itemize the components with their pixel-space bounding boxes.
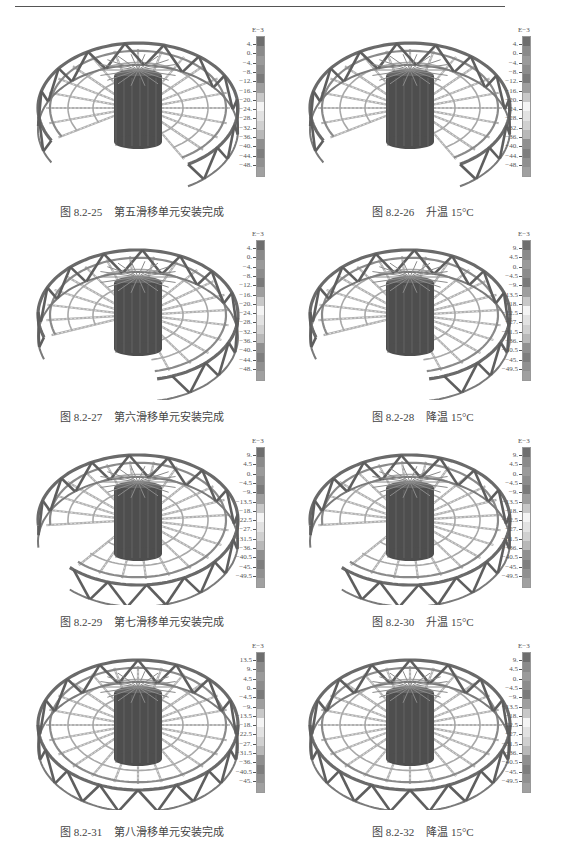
- legend-tick-mark: [253, 744, 256, 745]
- legend-tick-mark: [253, 697, 256, 698]
- legend-tick-label: −31.5: [488, 535, 518, 543]
- structure-contour-plot: [20, 645, 250, 814]
- legend-tick-mark: [253, 109, 256, 110]
- legend-tick-label: −45.: [222, 563, 252, 571]
- legend-unit: E−3: [252, 642, 264, 650]
- legend-unit: E−3: [518, 437, 530, 445]
- legend-tick-mark: [519, 248, 522, 249]
- legend-tick-label: −22.5: [488, 721, 518, 729]
- figure-title: 第六滑移单元安装完成: [114, 411, 224, 423]
- figure-caption: 图 8.2-26升温 15°C: [372, 203, 474, 219]
- legend-tick-label: −4.5: [222, 479, 252, 487]
- legend-tick-mark: [253, 128, 256, 129]
- legend-tick-label: 9.: [488, 656, 518, 664]
- figure-number: 图 8.2-27: [60, 411, 102, 423]
- legend-tick-label: 0.: [488, 49, 518, 57]
- legend-tick-mark: [519, 483, 522, 484]
- legend-tick-label: −4.5: [488, 272, 518, 280]
- legend-tick-label: −13.5: [488, 291, 518, 299]
- legend-tick-label: −9.: [488, 693, 518, 701]
- figure-title: 升温 15°C: [426, 206, 474, 218]
- legend-tick-label: −45.: [488, 768, 518, 776]
- figure-title: 降温 15°C: [426, 411, 474, 423]
- legend-tick-label: −4.: [222, 59, 252, 67]
- legend-tick-label: −36.: [222, 337, 252, 345]
- legend-tick-mark: [253, 734, 256, 735]
- legend-tick-label: −48.: [488, 161, 518, 169]
- header-rule: [15, 6, 505, 7]
- figure-number: 图 8.2-29: [60, 616, 102, 628]
- figure-number: 图 8.2-30: [372, 616, 414, 628]
- legend-tick-mark: [519, 313, 522, 314]
- legend-tick-mark: [519, 341, 522, 342]
- legend-tick-mark: [519, 744, 522, 745]
- legend-color-bar: [256, 240, 265, 381]
- legend-tick-mark: [253, 567, 256, 568]
- legend-tick-label: −13.5: [222, 498, 252, 506]
- legend-tick-mark: [253, 304, 256, 305]
- legend-tick-label: −27.: [222, 525, 252, 533]
- legend-tick-mark: [253, 248, 256, 249]
- legend-tick-label: −44.: [488, 152, 518, 160]
- legend-tick-label: 4.5: [488, 253, 518, 261]
- legend-color-bar: [256, 447, 265, 588]
- legend-tick-mark: [519, 548, 522, 549]
- legend-tick-label: −40.: [222, 142, 252, 150]
- legend-tick-label: 4.: [488, 40, 518, 48]
- legend-tick-label: −9.: [222, 703, 252, 711]
- legend-tick-mark: [519, 464, 522, 465]
- legend-tick-label: −45.: [488, 563, 518, 571]
- legend-tick-label: −4.5: [488, 479, 518, 487]
- legend-tick-label: −40.: [488, 142, 518, 150]
- legend-tick-label: 13.5: [222, 656, 252, 664]
- legend-tick-label: −32.: [222, 124, 252, 132]
- legend-tick-label: 4.: [222, 40, 252, 48]
- legend-tick-label: 0.: [488, 263, 518, 271]
- legend-tick-label: −16.: [222, 87, 252, 95]
- legend-tick-label: −16.: [222, 291, 252, 299]
- legend-tick-label: −31.5: [488, 740, 518, 748]
- legend-tick-label: −36.: [222, 758, 252, 766]
- legend-tick-mark: [519, 753, 522, 754]
- legend-tick-label: −27.: [488, 318, 518, 326]
- legend-tick-mark: [253, 576, 256, 577]
- legend-tick-mark: [519, 285, 522, 286]
- legend-tick-label: −31.5: [222, 535, 252, 543]
- legend-tick-mark: [253, 313, 256, 314]
- legend-tick-mark: [519, 557, 522, 558]
- structure-contour-plot: [20, 28, 250, 197]
- legend-tick-mark: [253, 725, 256, 726]
- legend-tick-mark: [519, 146, 522, 147]
- legend-tick-label: 4.5: [488, 665, 518, 673]
- legend-tick-mark: [253, 137, 256, 138]
- legend-tick-mark: [253, 492, 256, 493]
- legend-tick-label: −9.: [222, 488, 252, 496]
- legend-tick-mark: [253, 156, 256, 157]
- legend-tick-mark: [253, 511, 256, 512]
- legend-tick-mark: [519, 669, 522, 670]
- legend-tick-label: −27.: [222, 740, 252, 748]
- legend-tick-mark: [253, 455, 256, 456]
- legend-tick-mark: [519, 267, 522, 268]
- legend-tick-label: −49.5: [222, 572, 252, 580]
- legend-tick-mark: [519, 762, 522, 763]
- legend-tick-label: −32.: [222, 328, 252, 336]
- legend-tick-mark: [519, 697, 522, 698]
- legend-tick-mark: [253, 72, 256, 73]
- legend-tick-label: −27.: [488, 525, 518, 533]
- legend-tick-label: −18.: [488, 507, 518, 515]
- legend-tick-mark: [519, 772, 522, 773]
- legend-tick-label: −12.: [222, 77, 252, 85]
- legend-tick-mark: [519, 455, 522, 456]
- legend-tick-mark: [519, 304, 522, 305]
- legend-unit: E−3: [252, 437, 264, 445]
- figure-caption: 图 8.2-27第六滑移单元安装完成: [60, 408, 224, 424]
- figure-number: 图 8.2-26: [372, 206, 414, 218]
- legend-tick-mark: [253, 669, 256, 670]
- legend-tick-label: −13.5: [222, 712, 252, 720]
- figure-title: 第八滑移单元安装完成: [114, 826, 224, 838]
- legend-tick-mark: [253, 350, 256, 351]
- legend-tick-label: −9.: [488, 488, 518, 496]
- legend-tick-label: 0.: [222, 253, 252, 261]
- legend-tick-mark: [519, 707, 522, 708]
